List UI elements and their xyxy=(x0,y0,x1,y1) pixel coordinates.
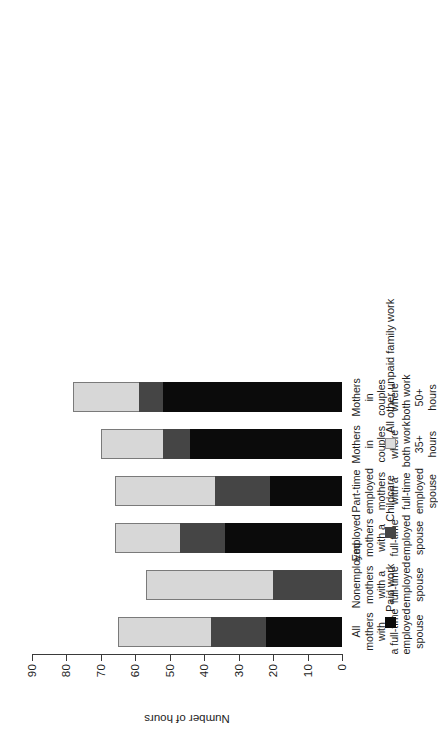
axis-tick-label: 60 xyxy=(129,664,141,677)
bar-segment-other xyxy=(101,429,163,459)
bar-segment-other xyxy=(115,523,180,553)
legend-item[interactable]: All other unpaid family work xyxy=(384,299,396,450)
axis-tick xyxy=(239,655,240,661)
stacked-bar xyxy=(101,429,342,459)
bar-segment-child xyxy=(139,382,163,412)
value-axis-line xyxy=(32,654,343,655)
stacked-bar xyxy=(73,382,342,412)
axis-tick-label: 20 xyxy=(267,664,279,677)
bar-segment-paid xyxy=(270,476,342,506)
bar-segment-other xyxy=(115,476,215,506)
legend-swatch-icon xyxy=(385,527,396,538)
axis-tick xyxy=(66,655,67,661)
axis-tick xyxy=(135,655,136,661)
axis-tick-label: 0 xyxy=(336,664,348,671)
axis-tick-label: 10 xyxy=(302,664,314,677)
axis-tick-label: 90 xyxy=(26,664,38,677)
bar-segment-other xyxy=(118,617,211,647)
axis-tick-label: 40 xyxy=(198,664,210,677)
bar-segment-child xyxy=(163,429,191,459)
bar-segment-child xyxy=(180,523,225,553)
legend-label: Paid work xyxy=(384,564,396,612)
plot-area: Number of hours 0102030405060708090 All … xyxy=(32,374,342,655)
bar-segment-paid xyxy=(225,523,342,553)
stacked-bar xyxy=(146,570,342,600)
axis-tick-label: 80 xyxy=(60,664,72,677)
axis-tick xyxy=(32,655,33,661)
axis-tick xyxy=(308,655,309,661)
stacked-bar xyxy=(115,476,342,506)
legend-swatch-icon xyxy=(385,438,396,449)
bar-segment-paid xyxy=(163,382,342,412)
legend-label: Childcare xyxy=(384,475,396,521)
legend-label: All other unpaid family work xyxy=(384,299,396,434)
bar-segment-child xyxy=(215,476,270,506)
legend-item[interactable]: Paid work xyxy=(384,564,396,628)
axis-tick xyxy=(273,655,274,661)
axis-tick xyxy=(101,655,102,661)
stacked-bar xyxy=(115,523,342,553)
chart-legend: Paid workChildcareAll other unpaid famil… xyxy=(384,299,396,628)
bar-segment-paid xyxy=(266,617,342,647)
stacked-bar xyxy=(118,617,342,647)
value-axis-title: Number of hours xyxy=(144,713,230,725)
legend-item[interactable]: Childcare xyxy=(384,475,396,537)
axis-tick-label: 30 xyxy=(233,664,245,677)
bar-segment-child xyxy=(273,570,342,600)
bar-segment-child xyxy=(211,617,266,647)
bar-segment-paid xyxy=(190,429,342,459)
bar-segment-other xyxy=(73,382,138,412)
axis-tick-label: 50 xyxy=(164,664,176,677)
legend-swatch-icon xyxy=(385,617,396,628)
bar-segment-other xyxy=(146,570,273,600)
axis-tick xyxy=(170,655,171,661)
axis-tick-label: 70 xyxy=(95,664,107,677)
axis-tick xyxy=(204,655,205,661)
axis-tick xyxy=(342,655,343,661)
